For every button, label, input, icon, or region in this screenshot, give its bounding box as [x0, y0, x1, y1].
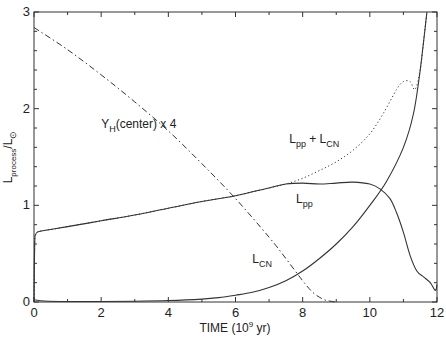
x-tick-label: 8 — [299, 305, 306, 320]
y-tick-label: 3 — [23, 4, 30, 19]
series-line-l-pp — [34, 182, 437, 302]
x-tick-label: 12 — [430, 305, 444, 320]
series-line-l-cn — [34, 12, 427, 302]
annotation-label: YH(center) x 4 — [101, 117, 177, 134]
annotation-label: Lpp — [296, 192, 313, 209]
y-tick-label: 1 — [23, 197, 30, 212]
series-group — [34, 12, 437, 302]
plot-border — [34, 12, 437, 302]
y-tick-label: 0 — [23, 294, 30, 309]
x-tick-label: 2 — [98, 305, 105, 320]
x-axis-label: TIME (109 yr) — [199, 320, 270, 335]
x-tick-label: 10 — [363, 305, 377, 320]
chart: 0246810120123 YH(center) x 4Lpp + LCNLpp… — [0, 0, 446, 341]
series-line-y-h-center-x-4 — [34, 27, 336, 302]
annotations: YH(center) x 4Lpp + LCNLppLCN — [101, 117, 339, 269]
x-tick-label: 6 — [232, 305, 239, 320]
x-tick-label: 4 — [165, 305, 172, 320]
tick-labels: 0246810120123 — [23, 4, 444, 320]
series-line-l-pp-l-cn — [34, 12, 427, 302]
y-axis-label: Lprocess/L⊙ — [1, 131, 18, 184]
y-tick-label: 2 — [23, 101, 30, 116]
plot-frame — [34, 12, 437, 302]
annotation-label: Lpp + LCN — [289, 132, 339, 149]
axis-ticks — [34, 12, 437, 302]
annotation-label: LCN — [252, 252, 272, 269]
axis-labels: TIME (109 yr) Lprocess/L⊙ — [1, 131, 271, 335]
x-tick-label: 0 — [30, 305, 37, 320]
